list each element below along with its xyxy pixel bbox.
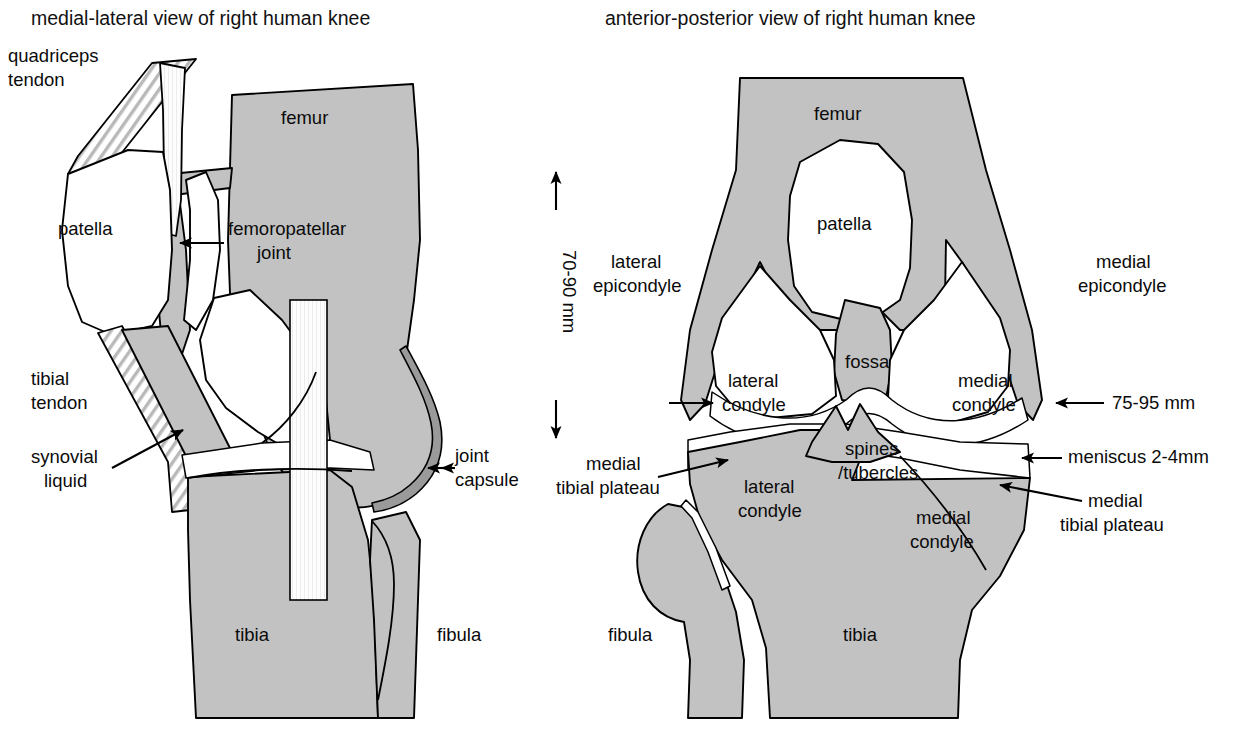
label-fossa: fossa bbox=[845, 351, 890, 372]
label-quadriceps-tendon-line1: quadriceps bbox=[8, 45, 99, 66]
label-meniscus: meniscus 2-4mm bbox=[1068, 446, 1209, 467]
patella-shape-sagittal bbox=[62, 150, 172, 335]
label-synovial-liquid-line1: synovial bbox=[31, 446, 98, 467]
label-synovial-liquid-line2: liquid bbox=[44, 470, 87, 491]
label-medial-condyle-femur-line1: medial bbox=[958, 370, 1013, 391]
scale-bar-value: 70-90 mm bbox=[559, 250, 580, 333]
label-medial-tibial-plateau-left-line1: medial bbox=[586, 453, 641, 474]
right-panel-title: anterior-posterior view of right human k… bbox=[605, 7, 976, 29]
label-width-measure: 75-95 mm bbox=[1112, 392, 1195, 413]
label-medial-tibial-plateau-right-line2: tibial plateau bbox=[1060, 514, 1164, 535]
fibula-shape-sagittal bbox=[370, 512, 420, 718]
label-fibula-frontal: fibula bbox=[608, 624, 653, 645]
label-tibia-sagittal: tibia bbox=[235, 624, 270, 645]
label-medial-condyle-tibia-line2: condyle bbox=[910, 531, 974, 552]
label-quadriceps-tendon-line2: tendon bbox=[8, 69, 65, 90]
label-medial-tibial-plateau-left-line2: tibial plateau bbox=[556, 477, 660, 498]
tibia-shape-sagittal bbox=[188, 470, 378, 718]
label-medial-condyle-tibia-line1: medial bbox=[916, 507, 971, 528]
label-joint-capsule-line2: capsule bbox=[455, 469, 519, 490]
left-panel-title: medial-lateral view of right human knee bbox=[31, 7, 370, 29]
label-femur-sagittal: femur bbox=[281, 107, 328, 128]
label-tibial-tendon-line2: tendon bbox=[31, 392, 88, 413]
label-femur-frontal: femur bbox=[814, 103, 861, 124]
label-lateral-condyle-tibia-line2: condyle bbox=[738, 500, 802, 521]
label-patella-sagittal: patella bbox=[58, 218, 113, 239]
label-spines-tubercles-line2: /tubercles bbox=[838, 462, 918, 483]
label-femoropatellar-joint-line2: joint bbox=[256, 242, 291, 263]
label-femoropatellar-joint-line1: femoropatellar bbox=[228, 218, 346, 239]
diagram-canvas: medial-lateral view of right human knee … bbox=[0, 0, 1237, 751]
left-knee-figure: quadriceps tendon patella femur femoropa… bbox=[8, 45, 519, 718]
label-fibula-sagittal: fibula bbox=[437, 624, 482, 645]
label-spines-tubercles-line1: spines bbox=[845, 438, 898, 459]
label-medial-epicondyle-line2: epicondyle bbox=[1078, 275, 1166, 296]
label-medial-condyle-femur-line2: condyle bbox=[952, 394, 1016, 415]
label-medial-epicondyle-line1: medial bbox=[1096, 251, 1151, 272]
label-lateral-epicondyle-line2: epicondyle bbox=[593, 275, 681, 296]
scale-bar-70-90mm: 70-90 mm bbox=[556, 172, 580, 438]
label-lateral-condyle-tibia-line1: lateral bbox=[744, 476, 794, 497]
label-lateral-condyle-femur-line1: lateral bbox=[728, 370, 778, 391]
label-tibial-tendon-line1: tibial bbox=[31, 368, 69, 389]
label-lateral-epicondyle-line1: lateral bbox=[611, 251, 661, 272]
label-joint-capsule-line1: joint bbox=[454, 445, 489, 466]
cruciate-ligament-stripe bbox=[290, 300, 327, 600]
right-knee-figure: femur patella lateral epicondyle medial … bbox=[556, 78, 1209, 718]
label-tibia-frontal: tibia bbox=[843, 624, 878, 645]
label-patella-frontal: patella bbox=[817, 213, 872, 234]
label-medial-tibial-plateau-right-line1: medial bbox=[1088, 490, 1143, 511]
label-lateral-condyle-femur-line2: condyle bbox=[722, 394, 786, 415]
